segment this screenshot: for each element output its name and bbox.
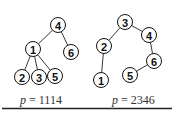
node-label: 4 xyxy=(55,20,62,32)
tree-node-3: 3 xyxy=(118,15,133,30)
tree-diagram-canvas: 416235 342615 p = 1114 p = 2346 xyxy=(0,0,176,114)
node-label: 5 xyxy=(52,71,58,83)
node-label: 2 xyxy=(19,72,25,84)
tree-node-1: 1 xyxy=(26,42,41,57)
tree-node-6: 6 xyxy=(147,54,162,69)
edge-2-1 xyxy=(102,53,104,72)
tree-right: 342615 xyxy=(94,15,162,88)
node-label: 5 xyxy=(127,70,133,82)
node-label: 4 xyxy=(146,30,153,42)
tree-node-5: 5 xyxy=(123,68,138,83)
edge-1-3 xyxy=(35,56,38,69)
node-label: 3 xyxy=(122,17,128,29)
edge-4-6 xyxy=(150,42,152,53)
tree-left: 416235 xyxy=(15,18,79,85)
edge-6-5 xyxy=(136,65,147,71)
edge-4-1 xyxy=(38,30,52,44)
edge-3-4 xyxy=(132,26,143,32)
tree-node-5: 5 xyxy=(48,69,63,84)
node-label: 6 xyxy=(68,47,74,59)
node-label: 3 xyxy=(36,72,42,84)
tree-node-1: 1 xyxy=(94,73,109,88)
edge-3-2 xyxy=(109,28,120,41)
edge-1-5 xyxy=(38,55,51,70)
edge-1-2 xyxy=(25,56,31,70)
tree-node-4: 4 xyxy=(142,28,157,43)
caption-right: p = 2346 xyxy=(111,93,155,107)
caption-left: p = 1114 xyxy=(19,93,62,107)
tree-node-2: 2 xyxy=(97,39,112,54)
node-label: 1 xyxy=(98,75,104,87)
tree-node-3: 3 xyxy=(32,70,47,85)
node-label: 1 xyxy=(30,44,36,56)
edge-4-6 xyxy=(61,32,67,45)
tree-node-6: 6 xyxy=(64,45,79,60)
node-label: 6 xyxy=(151,56,157,68)
node-label: 2 xyxy=(101,41,107,53)
tree-node-4: 4 xyxy=(51,18,66,33)
tree-node-2: 2 xyxy=(15,70,30,85)
